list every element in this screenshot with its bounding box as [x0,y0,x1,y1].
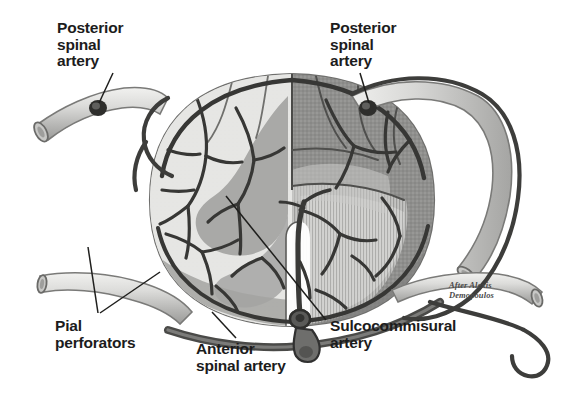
label-posterior-spinal-artery-left: Posterior spinal artery [57,20,123,70]
label-pial-perforators: Pial perforators [55,318,135,351]
label-anterior-spinal-artery: Anterior spinal artery [196,341,286,374]
anatomical-figure: Posterior spinal artery Posterior spinal… [0,0,585,395]
artist-credit: After Alexis Demopoulos [449,281,494,300]
label-posterior-spinal-artery-right: Posterior spinal artery [330,20,396,70]
label-sulcocommisural-artery: Sulcocommisural artery [330,318,456,351]
